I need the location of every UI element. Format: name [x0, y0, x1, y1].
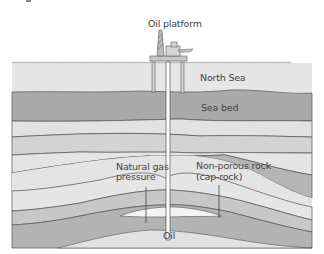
- platform-deck: [150, 56, 187, 61]
- sea-bed-label: Sea bed: [201, 103, 238, 113]
- sea-surface: [12, 62, 291, 63]
- platform-derrick: [157, 30, 164, 56]
- seabed-layer: [12, 90, 312, 121]
- oil-extraction-diagram: [0, 0, 324, 254]
- north-sea-label: North Sea: [200, 73, 246, 83]
- cap-rock-label-line1: Non-porous rock: [196, 161, 271, 171]
- cap-rock-label-line2: (cap-rock): [196, 172, 242, 182]
- oil-label: Oil: [163, 231, 175, 241]
- drill-pipe: [166, 62, 170, 240]
- platform-leg-right: [181, 62, 184, 93]
- sea-water: [12, 63, 312, 93]
- oil-platform-label: Oil platform: [148, 19, 202, 29]
- platform-building: [166, 46, 180, 56]
- platform-leg-left: [152, 62, 155, 92]
- rock-layer-2: [12, 133, 312, 155]
- natural-gas-label-line2: pressure: [116, 172, 155, 182]
